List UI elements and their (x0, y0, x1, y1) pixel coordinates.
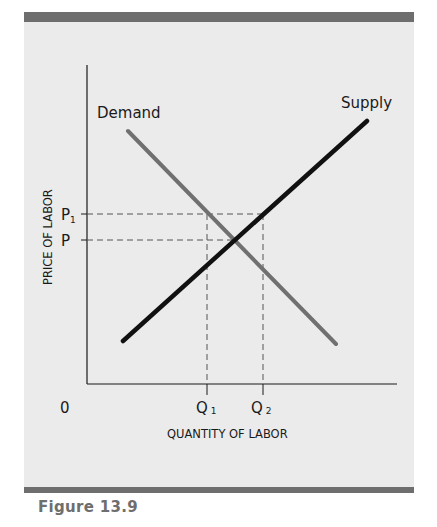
q1-label: Q1 (196, 399, 217, 417)
labor-market-chart: Demand Supply P1 P PRICE OF LABOR 0 Q1 Q… (0, 0, 437, 527)
x-axis-title: QUANTITY OF LABOR (167, 427, 288, 441)
p-label: P (61, 232, 70, 250)
origin-label: 0 (60, 399, 70, 417)
y-axis-title: PRICE OF LABOR (41, 189, 55, 285)
figure-caption: Figure 13.9 (38, 498, 138, 516)
supply-curve (123, 121, 367, 341)
demand-curve (128, 131, 336, 344)
q2-label: Q2 (251, 399, 272, 417)
supply-label: Supply (341, 94, 392, 112)
p1-label: P1 (61, 206, 76, 225)
demand-label: Demand (97, 104, 161, 122)
